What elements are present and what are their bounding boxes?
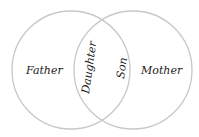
mother-label: Mother [140,64,183,77]
son-label: Son [114,57,130,80]
father-label: Father [25,64,63,77]
venn-diagram: Father Mother Daughter Son [0,0,199,137]
daughter-label: Daughter [79,40,99,96]
